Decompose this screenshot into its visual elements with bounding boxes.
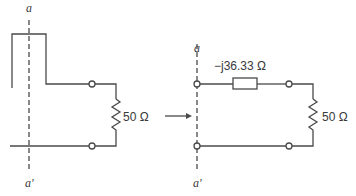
right-terminal-a-top bbox=[194, 81, 200, 87]
arrow-icon bbox=[186, 113, 192, 119]
left-load-label: 50 Ω bbox=[123, 111, 149, 123]
series-impedance-box bbox=[233, 78, 257, 89]
right-resistor bbox=[292, 99, 317, 146]
right-load-label: 50 Ω bbox=[322, 111, 348, 123]
right-top-wire-right bbox=[292, 84, 313, 99]
left-terminal-bottom bbox=[89, 143, 95, 149]
left-terminal-top bbox=[89, 81, 95, 87]
right-terminal-a-bottom bbox=[194, 143, 200, 149]
left-label-a-prime: a′ bbox=[25, 177, 34, 189]
left-label-a: a bbox=[26, 2, 32, 14]
left-top-wire bbox=[95, 84, 116, 99]
right-terminal-load-top bbox=[286, 81, 292, 87]
series-impedance-label: −j36.33 Ω bbox=[214, 60, 266, 72]
right-label-a-prime: a′ bbox=[193, 177, 202, 189]
right-terminal-load-bottom bbox=[286, 143, 292, 149]
circuit-diagram bbox=[0, 0, 356, 196]
left-resistor bbox=[95, 99, 120, 146]
left-open-stub bbox=[12, 34, 89, 88]
right-label-a: a bbox=[194, 42, 200, 54]
